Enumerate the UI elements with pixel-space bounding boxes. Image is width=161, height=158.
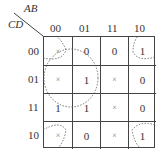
cell-r1-c1: 1 [72,65,100,93]
karnaugh-map-grid: × 0 0 1 × 1 × 0 1 1 × 0 × 0 × 1 [43,36,155,148]
cell-r0-c1: 0 [72,37,100,65]
cell-r1-c0: × [44,65,72,93]
cell-r2-c0: 1 [44,93,72,121]
cell-r3-c0: × [44,121,72,149]
cell-r3-c2: × [100,121,128,149]
cell-r2-c3: 0 [128,93,156,121]
cell-r2-c2: × [100,93,128,121]
cell-r2-c1: 1 [72,93,100,121]
cell-r1-c2: × [100,65,128,93]
cell-r1-c3: 0 [128,65,156,93]
cell-r0-c2: 0 [100,37,128,65]
cell-r3-c3: 1 [128,121,156,149]
cell-r3-c1: 0 [72,121,100,149]
cell-r0-c0: × [44,37,72,65]
cell-r0-c3: 1 [128,37,156,65]
